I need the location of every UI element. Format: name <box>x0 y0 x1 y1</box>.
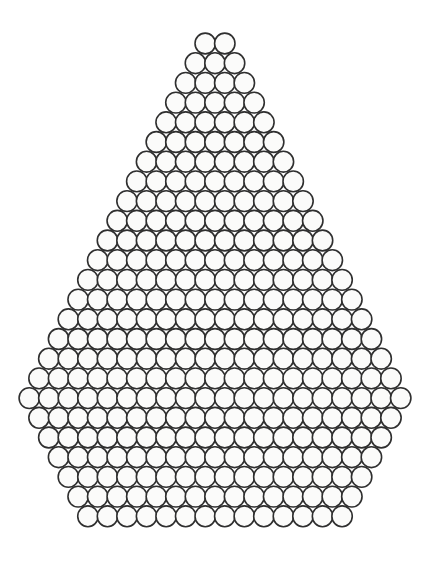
lattice-ellipse <box>146 171 166 192</box>
lattice-ellipse <box>263 289 283 310</box>
lattice-ellipse <box>322 407 342 428</box>
lattice-ellipse <box>146 250 166 271</box>
lattice-row <box>166 92 265 113</box>
lattice-ellipse <box>332 309 352 330</box>
lattice-ellipse <box>78 309 98 330</box>
lattice-ellipse <box>166 407 186 428</box>
lattice-ellipse <box>205 329 225 350</box>
lattice-ellipse <box>156 388 176 409</box>
lattice-ellipse <box>117 191 137 212</box>
lattice-ellipse <box>88 329 108 350</box>
lattice-ellipse <box>166 368 186 389</box>
lattice-ellipse <box>273 506 293 527</box>
lattice-row <box>107 210 323 231</box>
lattice-ellipse <box>136 151 156 172</box>
lattice-ellipse <box>68 329 88 350</box>
lattice-ellipse <box>244 289 264 310</box>
lattice-ellipse <box>234 348 254 369</box>
lattice-ellipse <box>303 250 323 271</box>
lattice-ellipse <box>215 388 235 409</box>
lattice-ellipse <box>107 447 127 468</box>
lattice-ellipse <box>205 486 225 507</box>
lattice-ellipse <box>78 467 98 488</box>
lattice-ellipse <box>146 132 166 153</box>
lattice-ellipse <box>215 230 235 251</box>
lattice-ellipse <box>244 210 264 231</box>
lattice-ellipse <box>224 368 244 389</box>
lattice-ellipse <box>97 506 117 527</box>
lattice-ellipse <box>88 368 108 389</box>
lattice-ellipse <box>185 132 205 153</box>
lattice-ellipse <box>342 289 362 310</box>
lattice-ellipse <box>195 309 215 330</box>
lattice-ellipse <box>146 407 166 428</box>
lattice-ellipse <box>215 467 235 488</box>
lattice-ellipse <box>342 368 362 389</box>
lattice-ellipse <box>117 348 137 369</box>
lattice-ellipse <box>175 151 195 172</box>
lattice-ellipse <box>293 270 313 291</box>
lattice-ellipse <box>234 191 254 212</box>
lattice-ellipse <box>303 447 323 468</box>
lattice-ellipse <box>88 447 108 468</box>
lattice-ellipse <box>146 368 166 389</box>
lattice-ellipse <box>322 486 342 507</box>
lattice-ellipse <box>127 250 147 271</box>
lattice-ellipse <box>58 348 78 369</box>
lattice-ellipse <box>273 388 293 409</box>
lattice-ellipse <box>312 427 332 448</box>
lattice-ellipse <box>322 329 342 350</box>
lattice-ellipse <box>312 506 332 527</box>
lattice-ellipse <box>283 368 303 389</box>
lattice-ellipse <box>97 309 117 330</box>
lattice-ellipse <box>293 506 313 527</box>
lattice-ellipse <box>175 270 195 291</box>
lattice-ellipse <box>205 132 225 153</box>
lattice-ellipse <box>136 427 156 448</box>
lattice-ellipse <box>88 486 108 507</box>
lattice-ellipse <box>371 348 391 369</box>
lattice-ellipse <box>361 368 381 389</box>
lattice-ellipse <box>117 388 137 409</box>
lattice-ellipse <box>273 309 293 330</box>
lattice-ellipse <box>156 112 176 133</box>
lattice-ellipse <box>234 230 254 251</box>
lattice-ellipse <box>332 427 352 448</box>
lattice-ellipse <box>117 270 137 291</box>
lattice-ellipse <box>166 132 186 153</box>
lattice-ellipse <box>156 309 176 330</box>
lattice-ellipse <box>195 73 215 94</box>
lattice-ellipse <box>166 92 186 113</box>
lattice-ellipse <box>254 467 274 488</box>
lattice-ellipse <box>127 407 147 428</box>
lattice-ellipse <box>156 270 176 291</box>
lattice-ellipse <box>381 368 401 389</box>
lattice-row <box>29 368 401 389</box>
lattice-ellipse <box>224 210 244 231</box>
lattice-ellipse <box>224 486 244 507</box>
lattice-ellipse <box>342 407 362 428</box>
lattice-ellipse <box>263 250 283 271</box>
lattice-ellipse <box>48 368 68 389</box>
lattice-ellipse <box>175 73 195 94</box>
lattice-ellipse <box>127 486 147 507</box>
lattice-ellipse <box>107 210 127 231</box>
lattice-ellipse <box>166 329 186 350</box>
ellipse-lattice-diagram <box>0 0 429 567</box>
lattice-ellipse <box>117 506 137 527</box>
lattice-ellipse <box>68 447 88 468</box>
lattice-ellipse <box>136 467 156 488</box>
lattice-ellipse <box>175 112 195 133</box>
lattice-ellipse <box>351 348 371 369</box>
lattice-ellipse <box>361 329 381 350</box>
lattice-ellipse <box>254 506 274 527</box>
lattice-ellipse <box>215 506 235 527</box>
lattice-ellipse <box>97 230 117 251</box>
lattice-ellipse <box>381 407 401 428</box>
lattice-ellipse <box>312 309 332 330</box>
lattice-ellipse <box>97 388 117 409</box>
lattice-ellipse <box>117 309 137 330</box>
lattice-ellipse <box>273 151 293 172</box>
lattice-ellipse <box>224 53 244 74</box>
lattice-ellipse <box>195 506 215 527</box>
